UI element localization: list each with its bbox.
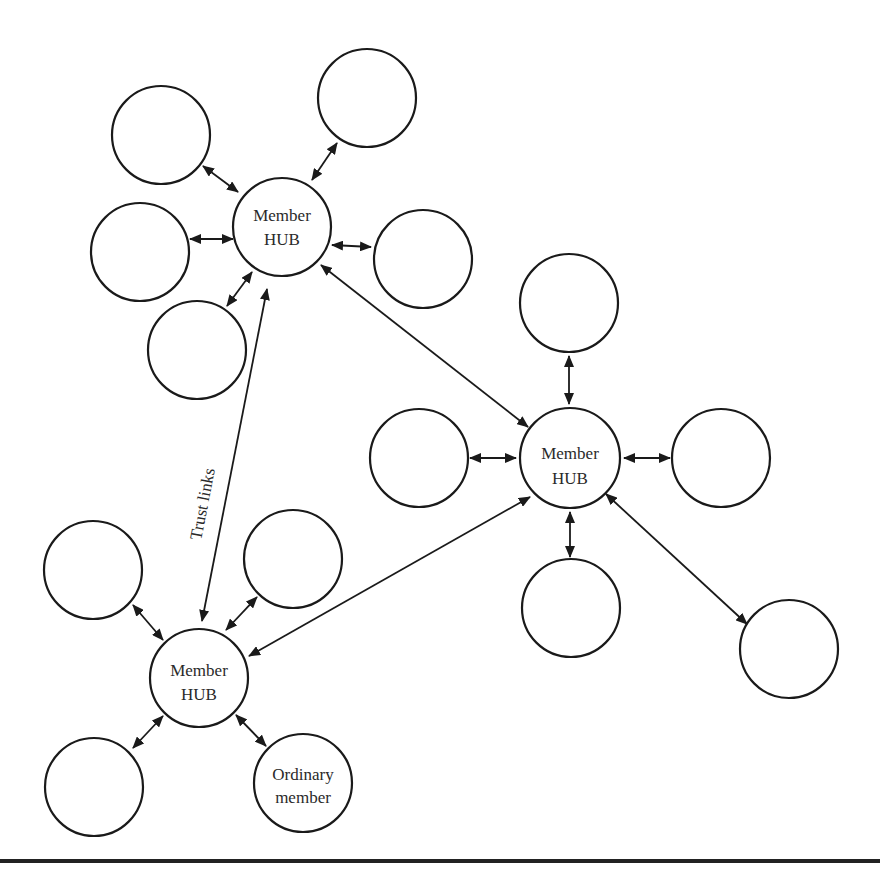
member-node [522, 559, 620, 657]
member-link [606, 494, 747, 624]
hub-top: Member HUB [233, 178, 331, 276]
hub-label-line1: Member [253, 206, 311, 225]
member-nodes [44, 49, 838, 836]
bottom-rule [0, 859, 880, 863]
hub-label-line1: Member [541, 444, 599, 463]
member-link [226, 597, 257, 630]
trust-links [202, 265, 530, 656]
member-node [740, 600, 838, 698]
member-node [112, 86, 210, 184]
trust-network-diagram: Member HUB Member HUB Member HUB Ordinar… [0, 0, 880, 879]
hub-circle [233, 178, 331, 276]
member-node [672, 409, 770, 507]
ordinary-member: Ordinary member [254, 734, 352, 832]
member-link [227, 272, 252, 306]
member-node [374, 210, 472, 308]
member-node [91, 203, 189, 301]
hub-label-line1: Member [170, 661, 228, 680]
member-link [312, 143, 337, 180]
member-link [133, 716, 163, 748]
hub-label-line2: HUB [181, 685, 217, 704]
member-link [203, 166, 238, 192]
member-link [133, 605, 163, 640]
hub-bottom-left: Member HUB [150, 629, 248, 727]
hub-label-line2: HUB [552, 469, 588, 488]
hub-label-line2: HUB [264, 230, 300, 249]
member-node [44, 521, 142, 619]
member-node [318, 49, 416, 147]
hub-right: Member HUB [520, 408, 620, 508]
ordinary-member-label-line1: Ordinary [272, 765, 334, 784]
member-node [520, 254, 618, 352]
member-link [236, 715, 266, 746]
member-node [244, 510, 342, 608]
ordinary-member-label-line2: member [275, 788, 331, 807]
member-link [332, 245, 371, 247]
member-node [370, 409, 468, 507]
member-node [45, 738, 143, 836]
member-node [148, 301, 246, 399]
trust-links-label: Trust links [186, 467, 219, 542]
